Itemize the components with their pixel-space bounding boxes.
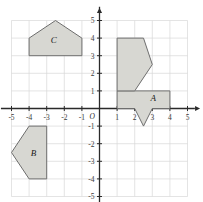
coordinate-plane-figure: -5-4-3-2-11234554321-1-2-3-4-5OACB <box>0 0 203 202</box>
shape-b <box>12 126 47 179</box>
y-axis-tick-label: -1 <box>88 122 94 131</box>
x-axis-tick-label: 4 <box>168 113 172 122</box>
x-axis-tick-label: 5 <box>186 113 190 122</box>
y-axis-tick-label: -5 <box>88 192 94 201</box>
x-axis-tick-label: 2 <box>133 113 137 122</box>
x-axis-tick-label: -2 <box>61 113 67 122</box>
x-axis-arrow-icon <box>195 106 200 111</box>
x-axis-tick-label: -4 <box>26 113 32 122</box>
origin-label: O <box>90 112 96 121</box>
x-axis-tick-label: -1 <box>79 113 85 122</box>
x-axis-tick-label: -3 <box>44 113 50 122</box>
y-axis-tick-label: -2 <box>88 140 94 149</box>
shape-unlabeled-top <box>117 38 152 91</box>
y-axis-tick-label: 2 <box>91 69 95 78</box>
y-axis-tick-label: -3 <box>88 157 94 166</box>
shape-a-label: A <box>149 93 156 103</box>
y-axis-tick-label: 4 <box>91 34 95 43</box>
y-axis-tick-label: -4 <box>88 175 94 184</box>
shape-a <box>117 91 170 126</box>
coordinate-plane-svg: -5-4-3-2-11234554321-1-2-3-4-5OACB <box>0 0 203 202</box>
shape-b-label: B <box>31 148 37 158</box>
y-axis-tick-label: 1 <box>91 87 95 96</box>
x-axis-tick-label: 3 <box>150 113 154 122</box>
x-axis-tick-label: -5 <box>8 113 14 122</box>
y-axis-arrow-icon <box>97 8 102 13</box>
x-axis-tick-label: 1 <box>115 113 119 122</box>
y-axis-tick-label: 5 <box>91 16 95 25</box>
y-axis-tick-label: 3 <box>91 52 95 61</box>
shape-c-label: C <box>51 35 58 45</box>
